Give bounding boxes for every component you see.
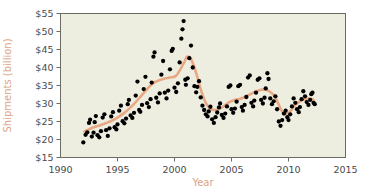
y-tick-label: $25 — [35, 116, 53, 127]
data-point — [166, 88, 170, 92]
data-point — [93, 120, 97, 124]
data-point — [168, 67, 172, 71]
data-point — [251, 104, 255, 108]
data-point — [124, 116, 128, 120]
data-point — [142, 87, 146, 91]
y-tick-label: $35 — [35, 80, 53, 91]
data-point — [164, 96, 168, 100]
data-point — [278, 124, 282, 128]
data-point — [231, 111, 235, 115]
data-point — [81, 140, 85, 144]
data-point — [291, 96, 295, 100]
y-tick-label: $30 — [35, 98, 53, 109]
data-point — [262, 96, 266, 100]
data-point — [273, 94, 277, 98]
y-axis-ticks: $15$20$25$30$35$40$45$50$55 — [35, 8, 60, 163]
data-point — [172, 86, 176, 90]
data-point — [150, 80, 154, 84]
data-point — [122, 121, 126, 125]
data-point — [132, 111, 136, 115]
data-point — [126, 102, 130, 106]
data-point — [117, 109, 121, 113]
data-point — [286, 118, 290, 122]
data-point — [107, 126, 111, 130]
data-point — [248, 73, 252, 77]
shipments-scatter-chart: $15$20$25$30$35$40$45$50$55 199019952000… — [0, 0, 375, 196]
data-point — [99, 129, 103, 133]
data-point — [265, 71, 269, 75]
data-point — [225, 104, 229, 108]
data-point — [195, 85, 199, 89]
data-point — [202, 108, 206, 112]
data-point — [284, 109, 288, 113]
data-point — [176, 81, 180, 85]
data-point — [177, 60, 181, 64]
data-point — [114, 127, 118, 131]
y-axis-title: Shipments (billion) — [2, 38, 13, 132]
x-tick-label: 2000 — [162, 164, 186, 175]
plot-area-background — [61, 14, 346, 158]
data-point — [223, 111, 227, 115]
data-point — [252, 98, 256, 102]
data-point — [91, 131, 95, 135]
x-axis-title: Year — [191, 177, 214, 188]
x-tick-label: 2005 — [219, 164, 243, 175]
data-point — [228, 83, 232, 87]
data-point — [212, 121, 216, 125]
data-point — [148, 97, 152, 101]
data-point — [303, 94, 307, 98]
data-point — [298, 105, 302, 109]
y-tick-label: $40 — [35, 62, 53, 73]
data-point — [217, 105, 221, 109]
y-tick-label: $45 — [35, 44, 53, 55]
data-point — [109, 114, 113, 118]
data-point — [313, 102, 317, 106]
data-point — [218, 101, 222, 105]
y-tick-label: $50 — [35, 26, 53, 37]
data-point — [180, 27, 184, 31]
data-point — [181, 19, 185, 23]
data-point — [205, 114, 209, 118]
data-point — [159, 73, 163, 77]
data-point — [288, 112, 292, 116]
data-point — [135, 79, 139, 83]
data-point — [266, 77, 270, 81]
data-point — [161, 59, 165, 63]
data-point — [154, 96, 158, 100]
data-point — [145, 101, 149, 105]
data-point — [187, 56, 191, 60]
x-tick-label: 2010 — [276, 164, 300, 175]
data-point — [106, 134, 110, 138]
x-tick-label: 1995 — [105, 164, 129, 175]
data-point — [241, 109, 245, 113]
data-point — [299, 97, 303, 101]
data-point — [130, 116, 134, 120]
data-point — [244, 95, 248, 99]
data-point — [90, 134, 94, 138]
data-point — [308, 98, 312, 102]
data-point — [85, 130, 89, 134]
data-point — [301, 89, 305, 93]
data-point — [268, 96, 272, 100]
data-point — [94, 114, 98, 118]
y-tick-label: $15 — [35, 152, 53, 163]
data-point — [115, 122, 119, 126]
data-point — [179, 37, 183, 41]
data-point — [242, 103, 246, 107]
data-point — [191, 65, 195, 69]
y-tick-label: $55 — [35, 8, 53, 19]
data-point — [138, 110, 142, 114]
data-point — [134, 93, 138, 97]
data-point — [257, 76, 261, 80]
data-point — [102, 112, 106, 116]
data-point — [290, 104, 294, 108]
data-point — [275, 107, 279, 111]
x-tick-label: 1990 — [48, 164, 72, 175]
data-point — [111, 110, 115, 114]
data-point — [213, 115, 217, 119]
data-point — [151, 55, 155, 59]
data-point — [264, 86, 268, 90]
x-tick-label: 2015 — [333, 164, 357, 175]
data-point — [88, 118, 92, 122]
data-point — [254, 91, 258, 95]
